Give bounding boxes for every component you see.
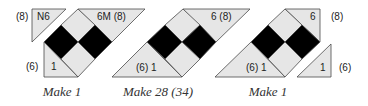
diagram-svg: (8) N6 6M (8) (6) 1 6 (8) (6) 1 6 (8) (6…: [0, 0, 368, 106]
unit2-bottom-label: (6) 1: [136, 62, 157, 73]
unit3-top-side-label: (8): [331, 11, 343, 22]
unit1-top-label: 6M (8): [97, 11, 126, 22]
unit2-caption: Make 28 (34): [122, 84, 193, 99]
unit1-detached-label: N6: [37, 11, 50, 22]
unit3-bottom-label: (6) 1: [246, 62, 267, 73]
unit1-bottom-side-label: (6): [26, 61, 38, 72]
unit1-detached-side-label: (8): [16, 11, 28, 22]
unit3-top-label: 6: [310, 11, 316, 22]
unit1-bottom-label: 1: [51, 61, 57, 72]
unit3-detached-side-label: (6): [339, 62, 351, 73]
unit1-caption: Make 1: [42, 84, 82, 99]
quilt-assembly-diagram: (8) N6 6M (8) (6) 1 6 (8) (6) 1 6 (8) (6…: [0, 0, 368, 106]
unit3-detached-label: 1: [320, 62, 326, 73]
unit3-caption: Make 1: [248, 84, 288, 99]
unit2-top-label: 6 (8): [211, 11, 232, 22]
